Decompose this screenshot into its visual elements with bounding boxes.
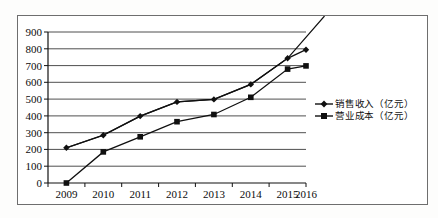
x-tick-label: 2012 (159, 188, 195, 200)
chart-figure: 900 800 700 600 500 400 300 200 100 0 20… (0, 0, 438, 218)
legend-marker-sales-revenue (315, 101, 333, 108)
y-tick-label: 100 (18, 160, 42, 172)
x-tick-label: 2010 (85, 188, 121, 200)
x-tick-label: 2014 (233, 188, 269, 200)
x-axis-ticks (48, 183, 306, 187)
y-tick-label: 0 (18, 177, 42, 189)
y-tick-label: 700 (18, 60, 42, 72)
y-tick-label: 800 (18, 43, 42, 55)
y-tick-label: 200 (18, 143, 42, 155)
y-tick-label: 400 (18, 110, 42, 122)
x-tick-label: 2011 (122, 188, 158, 200)
legend-marker-operating-cost (315, 113, 333, 119)
x-tick-label: 2016 (288, 188, 324, 200)
legend-label-sales-revenue: 销售收入（亿元） (335, 98, 413, 110)
y-tick-label: 300 (18, 127, 42, 139)
y-tick-label: 900 (18, 26, 42, 38)
chart-outer-frame: 900 800 700 600 500 400 300 200 100 0 20… (17, 15, 428, 205)
y-tick-label: 600 (18, 76, 42, 88)
x-tick-label: 2009 (48, 188, 84, 200)
y-tick-label: 500 (18, 93, 42, 105)
x-tick-label: 2013 (196, 188, 232, 200)
legend-label-operating-cost: 营业成本（亿元） (335, 110, 413, 122)
series-line-operating-cost (66, 66, 306, 183)
